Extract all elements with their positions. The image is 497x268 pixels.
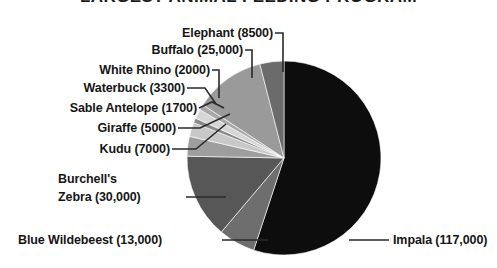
- pie-svg: [186, 60, 382, 256]
- chart-title: LARGEST ANIMAL FEEDING PROGRAM: [0, 0, 497, 3]
- label-kudu: Kudu (7000): [100, 142, 170, 156]
- label-impala: Impala (117,000): [393, 233, 487, 247]
- label-blue-wildebeest: Blue Wildebeest (13,000): [18, 233, 162, 247]
- label-sable-antelope: Sable Antelope (1700): [70, 101, 197, 115]
- label-waterbuck: Waterbuck (3300): [84, 81, 185, 95]
- label-zebra-line2: Zebra (30,000): [58, 190, 141, 204]
- label-elephant: Elephant (8500): [182, 26, 273, 40]
- label-white-rhino: White Rhino (2000): [99, 63, 210, 77]
- label-giraffe: Giraffe (5000): [98, 121, 177, 135]
- label-buffalo: Buffalo (25,000): [152, 43, 243, 57]
- label-zebra-line1: Burchell's: [58, 172, 117, 186]
- chart-canvas: LARGEST ANIMAL FEEDING PROGRAM: [0, 0, 497, 268]
- pie-chart: [186, 60, 382, 256]
